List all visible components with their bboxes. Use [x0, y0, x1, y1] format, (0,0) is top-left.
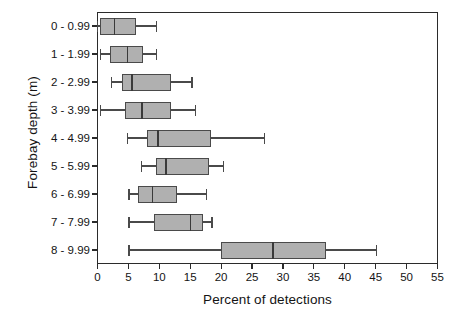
x-tick-20 [221, 264, 222, 269]
y-tick-label-4: 4 - 4.99 [30, 132, 90, 144]
whisker-high-cap [195, 105, 196, 116]
median-line [157, 130, 158, 147]
x-tick-label-40: 40 [330, 271, 360, 283]
whisker-high-line [211, 137, 264, 138]
x-tick-55 [437, 264, 438, 269]
y-tick-1 [92, 53, 97, 54]
median-line [131, 74, 132, 91]
whisker-low-line [101, 53, 110, 54]
x-tick-40 [344, 264, 345, 269]
y-tick-label-5: 5 - 5.99 [30, 160, 90, 172]
x-tick-30 [282, 264, 283, 269]
median-line [152, 186, 153, 203]
box-iqr [138, 186, 176, 203]
median-line [165, 158, 166, 175]
x-tick-10 [159, 264, 160, 269]
whisker-high-cap [191, 77, 192, 88]
x-axis-title: Percent of detections [97, 292, 438, 307]
whisker-high-cap [264, 133, 265, 144]
whisker-high-cap [211, 217, 212, 228]
whisker-high-line [326, 249, 376, 250]
whisker-low-cap [128, 217, 129, 228]
median-line [190, 214, 191, 231]
x-tick-5 [128, 264, 129, 269]
whisker-high-line [136, 25, 156, 26]
x-tick-label-0: 0 [83, 271, 113, 283]
whisker-high-cap [206, 189, 207, 200]
x-tick-label-25: 25 [237, 271, 267, 283]
x-tick-label-35: 35 [299, 271, 329, 283]
y-tick-label-7: 7 - 7.99 [30, 216, 90, 228]
y-tick-0 [92, 25, 97, 26]
y-tick-label-2: 2 - 2.99 [30, 76, 90, 88]
whisker-low-line [127, 137, 147, 138]
whisker-high-cap [376, 245, 377, 256]
x-tick-0 [97, 264, 98, 269]
median-line [127, 46, 128, 63]
whisker-low-cap [97, 21, 98, 32]
whisker-high-line [177, 193, 207, 194]
box-iqr [100, 18, 136, 35]
y-tick-label-column: 0 - 0.991 - 1.992 - 2.993 - 3.994 - 4.99… [28, 0, 90, 320]
y-tick-5 [92, 165, 97, 166]
whisker-low-line [101, 109, 125, 110]
y-tick-6 [92, 193, 97, 194]
whisker-high-cap [156, 21, 157, 32]
x-tick-label-5: 5 [113, 271, 143, 283]
whisker-high-line [209, 165, 223, 166]
whisker-low-cap [111, 77, 112, 88]
whisker-high-cap [223, 161, 224, 172]
box-plot-figure: Forebay depth (m) 0 - 0.991 - 1.992 - 2.… [0, 0, 454, 320]
y-tick-label-0: 0 - 0.99 [30, 20, 90, 32]
x-tick-label-30: 30 [268, 271, 298, 283]
x-tick-label-20: 20 [206, 271, 236, 283]
box-iqr [154, 214, 202, 231]
y-tick-3 [92, 109, 97, 110]
y-tick-label-3: 3 - 3.99 [30, 104, 90, 116]
whisker-low-line [129, 193, 138, 194]
whisker-high-line [171, 109, 196, 110]
x-tick-label-15: 15 [175, 271, 205, 283]
whisker-low-cap [100, 49, 101, 60]
y-tick-7 [92, 221, 97, 222]
whisker-low-cap [100, 105, 101, 116]
whisker-low-line [111, 81, 122, 82]
median-line [272, 242, 273, 259]
whisker-low-line [141, 165, 155, 166]
whisker-low-line [129, 221, 154, 222]
box-iqr [125, 102, 171, 119]
whisker-low-line [129, 249, 221, 250]
x-tick-35 [313, 264, 314, 269]
x-tick-label-50: 50 [392, 271, 422, 283]
box-iqr [122, 74, 171, 91]
y-tick-8 [92, 249, 97, 250]
whisker-high-line [143, 53, 157, 54]
median-line [141, 102, 142, 119]
whisker-high-cap [156, 49, 157, 60]
y-tick-4 [92, 137, 97, 138]
whisker-high-line [171, 81, 192, 82]
whisker-low-cap [128, 189, 129, 200]
y-tick-label-1: 1 - 1.99 [30, 48, 90, 60]
y-tick-label-6: 6 - 6.99 [30, 188, 90, 200]
x-tick-label-10: 10 [144, 271, 174, 283]
box-iqr [156, 158, 210, 175]
median-line [114, 18, 115, 35]
x-tick-45 [375, 264, 376, 269]
x-tick-25 [251, 264, 252, 269]
x-tick-15 [190, 264, 191, 269]
y-tick-2 [92, 81, 97, 82]
x-tick-50 [406, 264, 407, 269]
whisker-low-cap [128, 245, 129, 256]
whisker-low-cap [141, 161, 142, 172]
whisker-low-cap [127, 133, 128, 144]
y-tick-label-8: 8 - 9.99 [30, 244, 90, 256]
x-tick-label-45: 45 [361, 271, 391, 283]
x-tick-label-55: 55 [423, 271, 453, 283]
